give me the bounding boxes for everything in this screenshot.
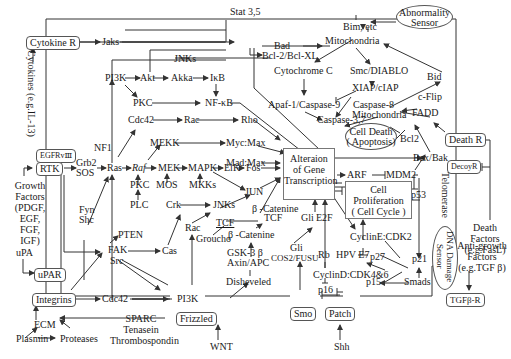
node-axin-apc: Axin/APC <box>227 258 269 268</box>
node-caspase8: Caspase-8 <box>353 100 394 110</box>
gene-transcription-line: Transcription <box>284 175 334 186</box>
growth-factors-line: IGF) <box>8 235 52 246</box>
node-hpv-e7: HPV E7 <box>336 250 369 260</box>
node-rac-mid: Rac <box>185 223 201 233</box>
node-mycmax: Myc:Max <box>226 138 265 148</box>
node-raf: Raf <box>132 163 146 173</box>
node-pten: PTEN <box>118 230 143 240</box>
node-crk: Crk <box>166 200 181 210</box>
abnormality-sensor-line: Sensor <box>397 18 452 28</box>
node-jun: JUN <box>245 187 263 197</box>
node-pi3k-top: PI3K <box>105 73 126 83</box>
node-mdm2: MDM2 <box>386 170 416 180</box>
node-disheveled: Disheveled <box>226 277 271 287</box>
patch-receptor: Patch <box>325 307 355 321</box>
node-mekk: MEKK <box>150 138 179 148</box>
sparc-group: SPARC Tenasein Thrombospondin <box>110 313 172 346</box>
node-b-catenine-2: β -Catenine <box>228 230 274 240</box>
upa-ligand: uPA <box>16 248 33 258</box>
node-cos2-fusu: COS2/FUSU <box>271 253 319 263</box>
sparc-line: Tenasein <box>110 324 172 335</box>
cell-proliferation-line: Proliferation <box>346 195 411 206</box>
dna-damage-sensor-ellipse: DNA Damage Sensor <box>432 226 458 290</box>
node-cdc42-top: Cdc42 <box>128 115 154 125</box>
dna-damage-line: Sensor <box>435 244 445 269</box>
node-jnks-mid: JNKs <box>213 200 235 210</box>
node-cytochrome-c: Cytochrome C <box>274 66 333 76</box>
anti-growth-line: Factors <box>454 251 510 262</box>
upar-receptor: uPAR <box>34 268 66 282</box>
node-p53: p53 <box>411 190 426 200</box>
node-cas: Cas <box>162 246 177 256</box>
node-pi3k-bot: PI3K <box>177 294 198 304</box>
cell-proliferation-box: Cell Proliferation ( Cell Cycle ) <box>345 181 412 219</box>
node-nf1: NF1 <box>94 143 112 153</box>
dna-damage-line: DNA Damage <box>445 231 455 282</box>
node-elk: ElK <box>224 163 240 173</box>
wnt-ligand: WNT <box>210 342 233 352</box>
plasmin-label: Plasmin <box>16 334 48 344</box>
node-rb: Rb <box>318 250 330 260</box>
node-xiap-ciap: XIAP/cIAP <box>352 83 399 93</box>
frizzled-receptor: Frizzled <box>176 312 217 326</box>
node-stat: Stat 3,5 <box>230 7 261 17</box>
node-akka: Akka <box>171 73 193 83</box>
node-rac-top: Rac <box>184 115 200 125</box>
rtk-receptor: RTK <box>36 162 63 176</box>
node-mos: MOS <box>156 180 178 190</box>
node-tcf-1: TCF <box>264 213 282 223</box>
cytokine-receptor: Cytokine R <box>26 36 80 50</box>
node-cycline-cdk2: CyclinE:CDK2 <box>350 232 412 242</box>
gene-transcription-line: Alteraion <box>284 153 334 164</box>
node-nfkb: NF-κB <box>205 98 233 108</box>
node-pkc-top: PKC <box>133 98 152 108</box>
node-rho: Rho <box>241 115 258 125</box>
pathway-connections <box>0 0 511 359</box>
dna-damage-sensor-text: DNA Damage Sensor <box>435 231 455 282</box>
shh-ligand: Shh <box>334 342 350 352</box>
node-fadd: FADD <box>412 108 438 118</box>
node-smac-diablo: Smc/DIABLO <box>350 66 408 76</box>
gene-transcription-line: of Gene <box>284 164 334 175</box>
sparc-line: SPARC <box>110 313 172 324</box>
node-sos: SOS <box>76 168 94 178</box>
tgfb-receptor: TGFβ-R <box>446 293 485 307</box>
node-cdc42-bot: Cdc42 <box>102 294 128 304</box>
sparc-line: Thrombospondin <box>110 335 172 346</box>
node-shc: Shc <box>79 215 94 225</box>
growth-factors-line: Growth <box>8 180 52 191</box>
node-akt: Akt <box>140 73 155 83</box>
node-gli-2: Gli <box>290 243 303 253</box>
node-cflip: c-Flip <box>418 92 442 102</box>
anti-growth-ligand: Anti-growth Factors (e.g.TGF β) <box>454 240 510 273</box>
integrins-receptor: Integrins <box>32 293 76 307</box>
proteases-label: Proteases <box>60 334 98 344</box>
decoy-receptor: DecoyR <box>447 160 481 174</box>
growth-factors-ligand: Growth Factors (PDGF, EGF, FGF, IGF) <box>8 180 52 246</box>
node-plc: PLC <box>130 200 148 210</box>
node-tcf-2: TCF <box>216 218 234 228</box>
node-bcl2: Bcl2 <box>400 134 419 144</box>
node-jnks-top: JNKs <box>174 54 196 64</box>
ecm-label: ECM <box>34 320 56 330</box>
node-src: Src <box>110 256 123 266</box>
node-bid: Bid <box>427 72 441 82</box>
node-jaks: Jaks <box>102 37 119 47</box>
gene-transcription-box: Alteraion of Gene Transcription <box>283 148 335 200</box>
death-receptor: Death R <box>445 133 486 147</box>
node-mitochondria-top: Mitochondria <box>325 36 379 46</box>
node-ras: Ras <box>107 163 122 173</box>
node-telomerase: Telomerase <box>440 172 450 218</box>
smo-receptor: Smo <box>290 307 316 321</box>
anti-growth-line: Anti-growth <box>454 240 510 251</box>
cell-death-line: ( Apoptosis) <box>346 137 396 147</box>
node-mapk: MAPK <box>188 163 217 173</box>
node-p21: p21 <box>412 254 427 264</box>
abnormality-sensor-ellipse: Abnormality Sensor <box>396 5 453 29</box>
node-bax-bak: Bax/Bak <box>413 153 448 163</box>
node-fos: Fos <box>246 163 260 173</box>
death-factors-line: Death <box>460 222 510 233</box>
node-e2f: E2F <box>316 213 333 223</box>
growth-factors-line: Factors <box>8 191 52 202</box>
node-apaf-caspase9: Apaf-1/Caspase-9 <box>268 100 340 110</box>
